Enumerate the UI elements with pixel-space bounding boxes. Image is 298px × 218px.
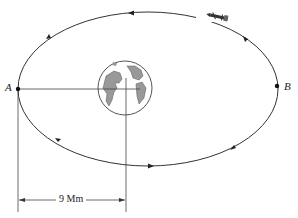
point-a-marker <box>16 87 20 91</box>
orbit-diagram <box>0 0 298 218</box>
point-b-marker <box>275 84 279 88</box>
earth-icon <box>98 61 152 115</box>
point-a-label: A <box>5 81 12 93</box>
point-b-label: B <box>284 80 291 92</box>
dimension-label: 9 Mm <box>56 193 86 204</box>
